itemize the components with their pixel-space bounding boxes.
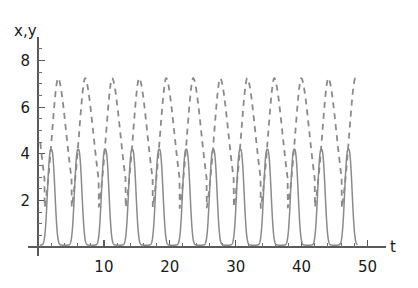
x-tick-label: 20 <box>160 258 179 276</box>
x-axis-label: t <box>390 238 396 256</box>
x-tick-label: 10 <box>94 258 113 276</box>
y-axis-ticks <box>38 49 45 235</box>
series-y-curve <box>40 78 357 208</box>
series-x-curve <box>40 149 357 245</box>
x-tick-label: 30 <box>226 258 245 276</box>
y-tick-label: 6 <box>20 99 30 117</box>
axes-group <box>28 37 386 256</box>
y-axis-label: x,y <box>14 22 37 40</box>
y-tick-label: 2 <box>20 192 30 210</box>
y-tick-label: 8 <box>20 52 30 70</box>
lotka-volterra-plot: 2468 1020304050 x,y t <box>0 0 418 288</box>
y-axis-tick-labels: 2468 <box>20 52 30 210</box>
x-tick-label: 50 <box>358 258 377 276</box>
chart-figure: 2468 1020304050 x,y t <box>0 0 418 288</box>
x-axis-tick-labels: 1020304050 <box>94 258 377 276</box>
x-tick-label: 40 <box>292 258 311 276</box>
y-tick-label: 4 <box>20 145 30 163</box>
